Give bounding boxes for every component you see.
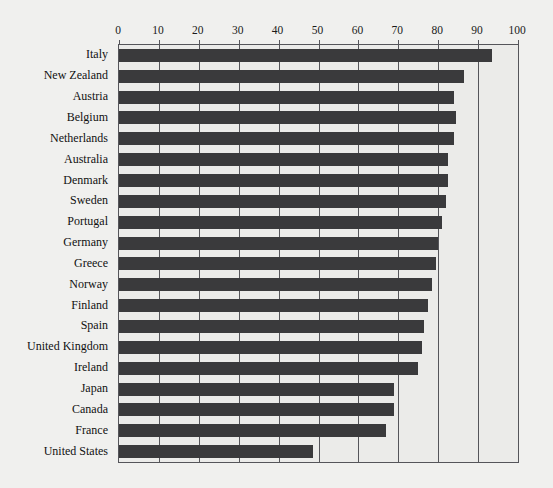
x-tick-mark-70 <box>398 40 399 45</box>
y-axis-label: Canada <box>72 402 108 415</box>
y-axis-label: United Kingdom <box>27 340 108 353</box>
x-tick-label-60: 60 <box>352 24 364 36</box>
x-tick-label-90: 90 <box>471 24 483 36</box>
y-axis-label: Australia <box>64 152 108 165</box>
bar <box>119 320 424 333</box>
y-axis-label: Belgium <box>67 110 108 123</box>
bar <box>119 111 456 124</box>
x-tick-mark-10 <box>159 40 160 45</box>
y-axis-label: Netherlands <box>50 131 108 144</box>
bar <box>119 237 438 250</box>
gridline-80 <box>438 45 439 462</box>
bar <box>119 49 492 62</box>
y-axis-label: Norway <box>69 277 108 290</box>
y-axis-label: Spain <box>81 319 108 332</box>
gridline-30 <box>239 45 240 462</box>
x-tick-mark-90 <box>478 40 479 45</box>
gridline-10 <box>159 45 160 462</box>
x-tick-label-30: 30 <box>232 24 244 36</box>
bar <box>119 174 448 187</box>
bar <box>119 278 432 291</box>
bar <box>119 299 428 312</box>
bar <box>119 216 442 229</box>
y-axis-label: Finland <box>71 298 108 311</box>
gridline-70 <box>398 45 399 462</box>
x-tick-mark-50 <box>319 40 320 45</box>
x-tick-label-0: 0 <box>115 24 121 36</box>
bar <box>119 341 422 354</box>
bar <box>119 70 464 83</box>
bar <box>119 445 313 458</box>
x-tick-label-50: 50 <box>312 24 324 36</box>
horizontal-bar-chart: 0102030405060708090100 ItalyNew ZealandA… <box>0 0 553 488</box>
x-tick-mark-30 <box>239 40 240 45</box>
x-tick-label-80: 80 <box>431 24 443 36</box>
gridline-90 <box>478 45 479 462</box>
y-axis-label: Greece <box>74 256 108 269</box>
bar <box>119 362 418 375</box>
y-axis-label: Portugal <box>67 215 108 228</box>
y-axis-label: Sweden <box>70 194 108 207</box>
gridline-40 <box>279 45 280 462</box>
x-tick-mark-20 <box>199 40 200 45</box>
y-axis-label: Italy <box>86 48 108 61</box>
x-tick-label-100: 100 <box>508 24 525 36</box>
plot-area <box>118 44 519 463</box>
x-tick-label-20: 20 <box>192 24 204 36</box>
y-axis-label: Denmark <box>63 173 108 186</box>
y-axis-label: Ireland <box>74 361 108 374</box>
bar <box>119 257 436 270</box>
x-tick-mark-0 <box>119 40 120 45</box>
bar <box>119 195 446 208</box>
x-tick-label-70: 70 <box>392 24 404 36</box>
bar <box>119 424 386 437</box>
x-tick-label-40: 40 <box>272 24 284 36</box>
y-axis-category-labels: ItalyNew ZealandAustriaBelgiumNetherland… <box>0 44 114 461</box>
bar <box>119 403 394 416</box>
y-axis-label: Japan <box>81 382 108 395</box>
y-axis-label: New Zealand <box>44 69 108 82</box>
y-axis-label: Austria <box>73 90 108 103</box>
x-tick-mark-100 <box>518 40 519 45</box>
x-tick-mark-60 <box>358 40 359 45</box>
y-axis-label: Germany <box>63 236 108 249</box>
bar <box>119 132 454 145</box>
x-tick-label-10: 10 <box>152 24 164 36</box>
bar <box>119 91 454 104</box>
y-axis-label: United States <box>44 444 108 457</box>
gridline-60 <box>358 45 359 462</box>
bar <box>119 153 448 166</box>
gridline-100 <box>518 45 519 462</box>
x-tick-mark-40 <box>279 40 280 45</box>
y-axis-label: France <box>75 423 108 436</box>
bar <box>119 383 394 396</box>
x-axis-tick-labels: 0102030405060708090100 <box>0 0 553 44</box>
gridline-20 <box>199 45 200 462</box>
gridline-50 <box>319 45 320 462</box>
x-tick-mark-80 <box>438 40 439 45</box>
